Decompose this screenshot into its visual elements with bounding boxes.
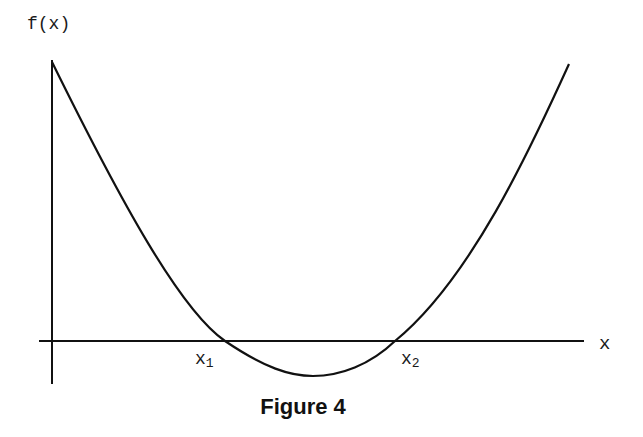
y-axis-label: f(x) [27,14,70,34]
figure-canvas: f(x) x x1 x2 Figure 4 [0,0,643,437]
root1-label: x1 [195,349,214,371]
parabola-curve [52,62,569,376]
root2-label: x2 [401,349,420,371]
figure-caption: Figure 4 [260,394,346,419]
x-axis-label: x [599,333,610,355]
